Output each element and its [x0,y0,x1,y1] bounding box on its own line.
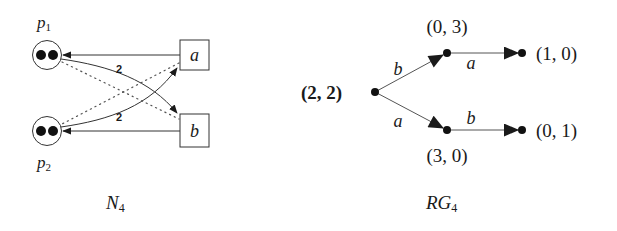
place-p2-label: p2 [36,153,51,173]
arc-weight-label: 2 [116,111,122,123]
edge-label: a [394,111,403,131]
svg-text:a: a [190,45,199,65]
petri-net: p1 p2 a b 2 2 N4 [33,13,210,215]
state-label: (3, 0) [426,145,467,167]
figure: p1 p2 a b 2 2 N4 [0,0,617,231]
token [36,50,46,60]
edge-label: b [394,59,403,79]
place-p2 [33,117,62,146]
state-node-initial [371,88,379,96]
place-p1-label: p1 [36,13,51,33]
edge-n0-to-n1 [375,55,443,92]
edge-label: b [467,108,476,128]
state-label: (0, 1) [536,120,577,142]
token [36,126,46,136]
state-node [518,49,526,57]
reachability-graph-caption: RG4 [425,192,457,215]
token [48,126,58,136]
state-label: (1, 0) [536,43,577,65]
svg-text:b: b [190,121,199,141]
state-node [443,49,451,57]
transition-b: b [180,114,209,147]
arc-weight-label: 2 [116,63,122,75]
state-label: (0, 3) [426,16,467,38]
place-p1 [33,41,62,70]
petri-net-caption: N4 [105,192,125,215]
edge-label: a [467,53,476,73]
state-node [443,126,451,134]
edge-n0-to-n3 [375,92,443,128]
state-label-initial: (2, 2) [301,82,342,104]
state-node [518,126,526,134]
token [48,50,58,60]
reachability-graph: b a a b (2, 2) (0, 3) (1, 0) (3, 0) (0, … [301,16,577,215]
transition-a: a [180,40,209,70]
